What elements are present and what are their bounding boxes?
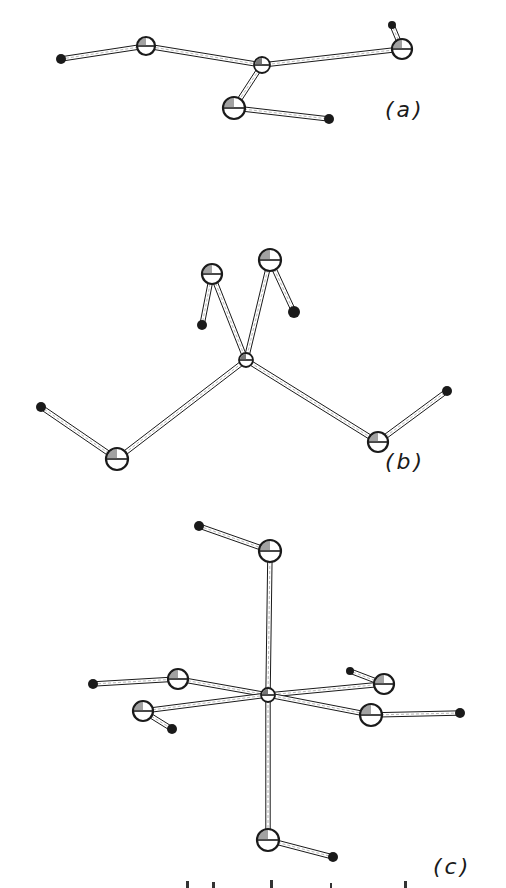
molecule-panel-b: (b) <box>0 230 506 480</box>
panel-label-b: (b) <box>385 449 425 474</box>
central-atom <box>261 688 275 702</box>
small-atom <box>442 386 452 396</box>
molecule-panel-c: (c) <box>0 500 506 878</box>
bond <box>61 44 147 61</box>
molecule-diagram-b <box>0 230 506 480</box>
small-atom <box>346 667 354 675</box>
large-atom <box>259 540 281 562</box>
large-atom <box>374 674 394 694</box>
small-atom <box>324 114 334 124</box>
central-atom <box>254 57 270 73</box>
bond <box>377 389 449 444</box>
small-atom <box>288 306 300 318</box>
large-atom <box>223 97 245 119</box>
bond <box>244 259 272 360</box>
small-atom <box>455 708 465 718</box>
bond <box>210 273 248 361</box>
central-atom <box>239 353 253 367</box>
bond <box>268 682 384 697</box>
bond <box>262 47 402 67</box>
small-atom <box>328 852 338 862</box>
bond <box>245 358 379 444</box>
small-atom <box>36 402 46 412</box>
large-atom <box>257 829 279 851</box>
large-atom <box>202 264 222 284</box>
large-atom <box>133 701 153 721</box>
large-atom <box>106 448 128 470</box>
bond <box>234 106 330 121</box>
panel-label-a: (a) <box>385 97 425 122</box>
large-atom <box>259 249 281 271</box>
molecule-diagram-a <box>0 0 506 160</box>
large-atom <box>137 37 155 55</box>
small-atom <box>88 679 98 689</box>
small-atom <box>167 724 177 734</box>
bond <box>371 711 460 717</box>
molecule-panel-a: (a) <box>0 0 506 160</box>
clipped-caption <box>0 878 506 888</box>
bond <box>268 693 372 717</box>
large-atom <box>360 704 382 726</box>
small-atom <box>194 521 204 531</box>
large-atom <box>168 669 188 689</box>
bond <box>146 44 263 67</box>
small-atom <box>197 320 207 330</box>
large-atom <box>392 39 412 59</box>
bond <box>116 358 248 460</box>
bond <box>266 551 272 695</box>
panel-label-c: (c) <box>433 854 471 879</box>
bond <box>143 693 269 713</box>
caption-ascenders <box>0 878 506 888</box>
bond <box>266 695 270 840</box>
bond <box>40 405 118 461</box>
bond <box>93 677 178 686</box>
small-atom <box>388 21 396 29</box>
molecule-diagram-c <box>0 500 506 878</box>
small-atom <box>56 54 66 64</box>
